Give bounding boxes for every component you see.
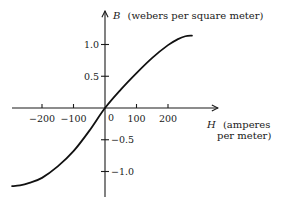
x-tick-label: 100 xyxy=(127,113,145,124)
y-tick-label: 1.0 xyxy=(84,39,99,50)
y-axis-title: B (webers per square meter) xyxy=(112,10,264,21)
y-axis-variable: B xyxy=(112,10,120,21)
y-axis-units: (webers per square meter) xyxy=(128,10,264,21)
x-axis-variable: H xyxy=(206,119,216,130)
bh-curve-line xyxy=(12,36,192,187)
x-axis-units-line2: per meter) xyxy=(217,130,271,141)
x-tick-label: −200 xyxy=(29,113,55,124)
y-tick-label: −0.5 xyxy=(111,134,134,145)
x-tick-label: 200 xyxy=(159,113,177,124)
origin-label: 0 xyxy=(108,112,114,123)
x-axis-units-line1: (amperes xyxy=(223,119,271,130)
x-axis-title: H (amperes xyxy=(206,119,270,130)
bh-curve-chart: −200−100100200 1.00.5−0.5−1.0 0 B (weber… xyxy=(0,0,283,208)
x-ticks: −200−100100200 xyxy=(29,104,177,124)
y-tick-label: 0.5 xyxy=(84,71,99,82)
y-tick-label: −1.0 xyxy=(111,166,134,177)
x-tick-label: −100 xyxy=(60,113,86,124)
